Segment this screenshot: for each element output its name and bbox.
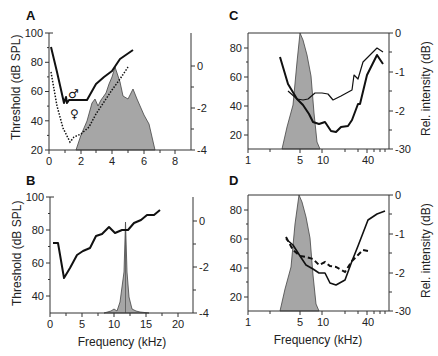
y-ticks-right: 0 -2 -4 — [193, 215, 209, 319]
svg-text:-1: -1 — [395, 228, 405, 240]
svg-text:0: 0 — [46, 155, 52, 167]
svg-text:-4: -4 — [197, 144, 207, 156]
svg-text:8: 8 — [172, 155, 178, 167]
call-spectrum-area — [282, 33, 320, 149]
x-ticks: 0 2 4 6 8 — [46, 150, 178, 167]
svg-text:0: 0 — [395, 27, 401, 39]
female-symbol: ♀ — [70, 107, 79, 121]
svg-text:40: 40 — [31, 115, 43, 127]
svg-text:80: 80 — [230, 42, 242, 54]
panel-label-a: A — [26, 8, 36, 23]
threshold-line — [53, 210, 160, 278]
svg-text:60: 60 — [230, 233, 242, 245]
svg-text:-2: -2 — [197, 102, 207, 114]
svg-text:60: 60 — [230, 71, 242, 83]
call-spectrum-area — [280, 195, 319, 311]
svg-text:60: 60 — [31, 85, 43, 97]
svg-text:-2: -2 — [199, 261, 209, 273]
y-axis-title-a: Threshold (dB SPL) — [9, 35, 23, 140]
x-axis-title-d: Frequency (kHz) — [274, 333, 363, 347]
svg-text:40: 40 — [230, 262, 242, 274]
svg-text:20: 20 — [31, 144, 43, 156]
svg-text:40: 40 — [362, 154, 374, 166]
y2-axis-title-c: Rel. intensity (dB) — [419, 41, 433, 136]
svg-text:-4: -4 — [199, 307, 209, 319]
svg-text:80: 80 — [230, 204, 242, 216]
svg-text:15: 15 — [140, 318, 152, 330]
y-ticks-left: 80 60 40 20 — [230, 42, 248, 141]
y-ticks-left: 80 60 40 20 — [230, 204, 248, 303]
x-ticks-log: 1 5 10 40 — [245, 311, 385, 328]
panel-d: D 80 60 40 20 1 5 10 40 — [229, 173, 433, 347]
call-spectrum-area — [76, 67, 155, 150]
svg-text:10: 10 — [108, 318, 120, 330]
y-axis-title-b: Threshold (dB SPL) — [10, 201, 24, 306]
y-ticks-left: 100 80 60 40 20 — [25, 27, 49, 156]
svg-text:40: 40 — [362, 316, 374, 328]
y2-axis-title-d: Rel. intensity (dB) — [419, 203, 433, 298]
svg-text:1: 1 — [245, 154, 251, 166]
svg-text:100: 100 — [25, 27, 43, 39]
svg-text:40: 40 — [230, 100, 242, 112]
figure: A ♂ ♀ 100 80 60 40 20 — [0, 0, 438, 356]
svg-text:-2: -2 — [395, 105, 405, 117]
svg-text:6: 6 — [141, 155, 147, 167]
svg-text:80: 80 — [32, 224, 44, 236]
panel-label-c: C — [229, 8, 239, 23]
y-ticks-right: 0 -1 -2 -30 — [389, 189, 411, 317]
svg-text:-2: -2 — [395, 267, 405, 279]
svg-text:5: 5 — [79, 318, 85, 330]
svg-text:4: 4 — [109, 155, 115, 167]
svg-text:20: 20 — [230, 129, 242, 141]
svg-text:80: 80 — [31, 56, 43, 68]
panel-c: C 80 60 40 20 1 5 10 40 — [229, 8, 433, 166]
x-axis-title-b: Frequency (kHz) — [78, 335, 167, 349]
svg-text:0: 0 — [47, 318, 53, 330]
svg-text:5: 5 — [297, 316, 303, 328]
panel-label-b: B — [26, 173, 35, 188]
panel-b: B 100 80 60 40 0 5 10 15 20 — [10, 173, 209, 349]
svg-text:1: 1 — [245, 316, 251, 328]
svg-text:10: 10 — [317, 316, 329, 328]
y-ticks-left: 100 80 60 40 — [26, 191, 50, 302]
svg-text:40: 40 — [32, 290, 44, 302]
x-ticks: 0 5 10 15 20 — [47, 313, 184, 330]
svg-text:10: 10 — [317, 154, 329, 166]
svg-text:20: 20 — [172, 318, 184, 330]
svg-text:-30: -30 — [395, 143, 411, 155]
svg-text:5: 5 — [297, 154, 303, 166]
y-ticks-right: 0 -2 -4 — [191, 60, 207, 156]
panel-label-d: D — [229, 173, 238, 188]
x-ticks-log: 1 5 10 40 — [245, 149, 385, 166]
svg-text:-1: -1 — [395, 66, 405, 78]
svg-text:-30: -30 — [395, 305, 411, 317]
svg-text:60: 60 — [32, 257, 44, 269]
svg-text:20: 20 — [230, 291, 242, 303]
svg-text:0: 0 — [199, 215, 205, 227]
svg-text:100: 100 — [26, 191, 44, 203]
panel-a: A ♂ ♀ 100 80 60 40 20 — [9, 8, 207, 167]
svg-text:0: 0 — [197, 60, 203, 72]
call-spectrum-area — [104, 222, 149, 313]
y-ticks-right: 0 -1 -2 -30 — [389, 27, 411, 155]
male-symbol: ♂ — [68, 87, 79, 101]
svg-text:0: 0 — [395, 189, 401, 201]
svg-text:2: 2 — [78, 155, 84, 167]
